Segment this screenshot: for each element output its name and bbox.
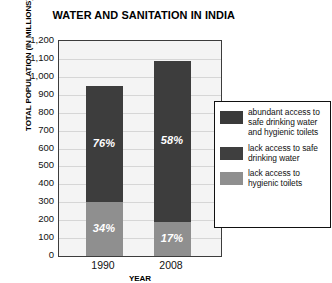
legend: abundant access to safe drinking water a… [214, 101, 331, 228]
bar-segment-dark-1990: 76% [86, 86, 123, 202]
y-tick-label: 1,100 [8, 53, 54, 63]
chart-title: WATER AND SANITATION IN INDIA [53, 9, 224, 22]
plot-area: 76%34%58%17% [58, 40, 222, 257]
y-tick-label: 1,200 [8, 35, 54, 45]
chart-container: WATER AND SANITATION IN INDIA TOTAL POPU… [0, 0, 332, 283]
bar-label-light-2008: 17% [154, 232, 191, 244]
legend-item: lack access to hygienic toilets [220, 168, 326, 188]
bar-label-dark-2008: 58% [154, 134, 191, 146]
bar-segment-dark-2008: 58% [154, 61, 191, 222]
x-tick-label-2008: 2008 [141, 259, 201, 271]
y-tick-label: 800 [8, 107, 54, 117]
legend-label: lack access to hygienic toilets [248, 168, 326, 188]
x-tick-label-1990: 1990 [73, 259, 133, 271]
legend-item: abundant access to safe drinking water a… [220, 107, 326, 138]
legend-swatch [220, 111, 243, 124]
legend-swatch [220, 172, 243, 185]
y-tick-label: 400 [8, 178, 54, 188]
legend-item: lack access to safe drinking water [220, 143, 326, 163]
bar-segment-light-1990: 34% [86, 202, 123, 256]
bar-1990: 76%34% [86, 86, 123, 256]
bar-label-light-1990: 34% [86, 222, 123, 234]
x-axis-title: YEAR [58, 274, 222, 283]
y-tick-label: 200 [8, 214, 54, 224]
legend-swatch [220, 147, 243, 160]
legend-label: abundant access to safe drinking water a… [248, 107, 326, 138]
y-tick-label: 700 [8, 125, 54, 135]
y-axis-tick-labels: 01002003004005006007008009001,0001,1001,… [4, 40, 54, 257]
y-tick-label: 1,000 [8, 71, 54, 81]
bar-2008: 58%17% [154, 61, 191, 256]
y-tick-label: 0 [8, 250, 54, 260]
bar-segment-light-2008: 17% [154, 222, 191, 256]
y-tick-label: 600 [8, 143, 54, 153]
legend-label: lack access to safe drinking water [248, 143, 326, 163]
y-tick-label: 300 [8, 196, 54, 206]
y-tick-label: 100 [8, 232, 54, 242]
bars-layer: 76%34%58%17% [59, 41, 221, 256]
y-tick-label: 500 [8, 160, 54, 170]
y-tick-label: 900 [8, 89, 54, 99]
bar-label-dark-1990: 76% [86, 137, 123, 149]
